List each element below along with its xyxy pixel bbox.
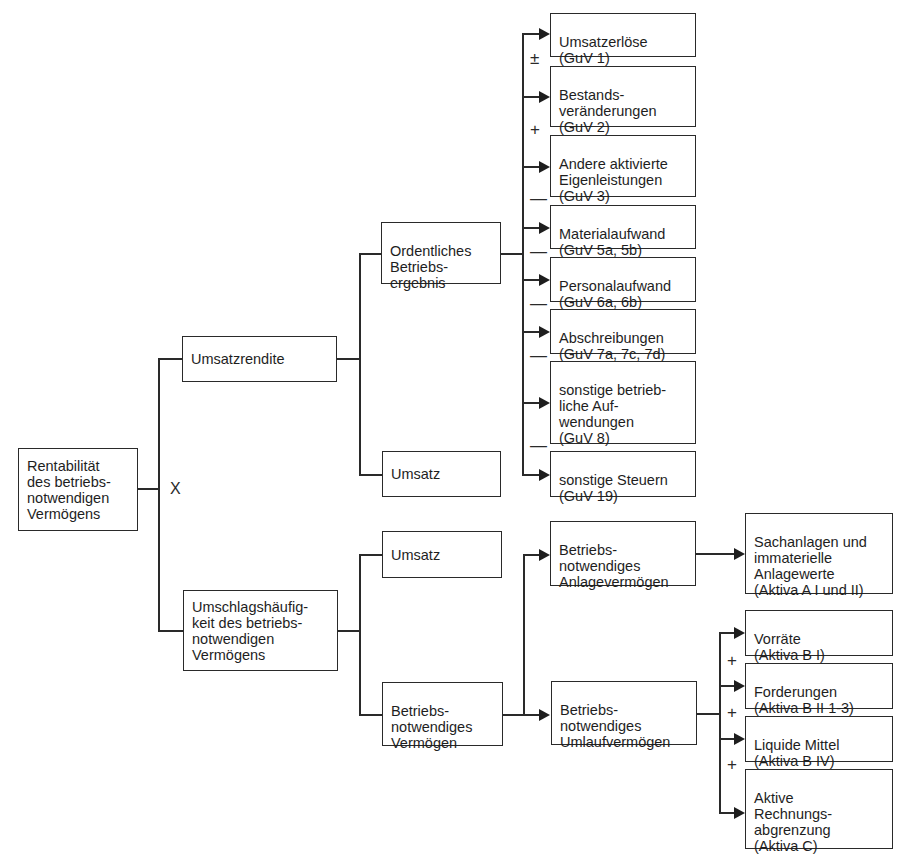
arrow-icon: [539, 161, 550, 173]
label: Andere aktivierte Eigenleistungen (GuV 3…: [559, 156, 668, 204]
plus-sign: +: [727, 704, 737, 721]
connector: [522, 227, 540, 229]
arrow-icon: [539, 326, 550, 338]
box-aktive-rechnungsabgrenzung: Aktive Rechnungs- abgrenzung (Aktiva C): [745, 769, 893, 849]
box-bestandsveraenderungen: Bestands- veränderungen (GuV 2): [550, 66, 696, 127]
connector: [522, 402, 540, 404]
connector: [522, 33, 540, 35]
connector: [522, 331, 540, 333]
box-umlaufvermoegen: Betriebs- notwendiges Umlaufvermögen: [551, 681, 697, 745]
connector: [719, 632, 721, 813]
connector: [696, 553, 734, 555]
connector: [359, 253, 361, 475]
connector: [522, 166, 540, 168]
label: Umsatzrendite: [191, 351, 284, 367]
connector: [696, 713, 719, 715]
multiply-operator: X: [170, 480, 181, 498]
connector: [137, 488, 159, 490]
box-sachanlagen: Sachanlagen und immaterielle Anlagewerte…: [745, 513, 893, 594]
arrow-icon: [734, 627, 745, 639]
label: sonstige betrieb- liche Auf- wendungen (…: [559, 382, 666, 446]
label: Betriebs- notwendiges Umlaufvermögen: [560, 702, 670, 750]
root-label: Rentabilität des betriebs- notwendigen V…: [27, 458, 111, 522]
box-forderungen: Forderungen (Aktiva B II 1-3): [745, 663, 893, 709]
label: Liquide Mittel (Aktiva B IV): [754, 737, 839, 769]
box-sonstige-betriebliche-aufwendungen: sonstige betrieb- liche Auf- wendungen (…: [550, 361, 696, 444]
connector: [719, 812, 735, 814]
plus-sign: +: [530, 121, 540, 138]
connector: [359, 554, 361, 715]
connector: [158, 630, 183, 632]
connector: [337, 630, 360, 632]
minus-sign: —: [530, 243, 547, 260]
connector: [359, 253, 382, 255]
arrow-icon: [539, 469, 550, 481]
connector: [359, 474, 382, 476]
label: Abschreibungen (GuV 7a, 7c, 7d): [559, 330, 665, 362]
connector: [719, 738, 735, 740]
box-sonstige-steuern: sonstige Steuern (GuV 19): [550, 451, 696, 497]
minus-sign: —: [530, 295, 547, 312]
label: Betriebs- notwendiges Vermögen: [391, 703, 472, 751]
box-umschlagshaeufigkeit: Umschlagshäufig- keit des betriebs- notw…: [183, 590, 338, 671]
minus-sign: —: [530, 437, 547, 454]
connector: [523, 554, 540, 556]
connector: [359, 714, 382, 716]
connector: [336, 358, 360, 360]
arrow-icon: [539, 549, 550, 561]
minus-sign: —: [530, 190, 547, 207]
plus-sign: +: [727, 756, 737, 773]
box-andere-aktivierte-eigenleistungen: Andere aktivierte Eigenleistungen (GuV 3…: [550, 135, 696, 197]
box-materialaufwand: Materialaufwand (GuV 5a, 5b): [550, 205, 696, 249]
arrow-icon: [539, 28, 550, 40]
label: Umsatz: [391, 547, 440, 563]
arrow-icon: [734, 733, 745, 745]
label: Personalaufwand (GuV 6a, 6b): [559, 278, 671, 310]
box-umsatzrendite: Umsatzrendite: [182, 336, 337, 382]
box-umsatz-upper: Umsatz: [382, 451, 501, 497]
root-box-rentabilitaet: Rentabilität des betriebs- notwendigen V…: [18, 448, 138, 531]
label: Vorräte (Aktiva B I): [754, 631, 825, 663]
plus-minus-sign: ±: [530, 50, 539, 67]
label: Ordentliches Betriebs- ergebnis: [390, 243, 471, 291]
connector: [158, 358, 160, 631]
connector: [522, 474, 540, 476]
minus-sign: —: [530, 347, 547, 364]
box-vorraete: Vorräte (Aktiva B I): [745, 610, 893, 656]
box-liquide-mittel: Liquide Mittel (Aktiva B IV): [745, 716, 893, 762]
label: Bestands- veränderungen (GuV 2): [559, 87, 657, 135]
arrow-icon: [539, 222, 550, 234]
connector: [502, 714, 540, 716]
connector: [523, 554, 525, 715]
arrow-icon: [539, 709, 550, 721]
label: Aktive Rechnungs- abgrenzung (Aktiva C): [754, 790, 832, 854]
arrow-icon: [539, 91, 550, 103]
arrow-icon: [539, 397, 550, 409]
connector: [500, 253, 523, 255]
connector: [158, 358, 183, 360]
connector: [359, 554, 382, 556]
box-abschreibungen: Abschreibungen (GuV 7a, 7c, 7d): [550, 309, 696, 354]
plus-sign: +: [727, 652, 737, 669]
arrow-icon: [734, 807, 745, 819]
box-personalaufwand: Personalaufwand (GuV 6a, 6b): [550, 257, 696, 302]
label: sonstige Steuern (GuV 19): [559, 472, 668, 504]
box-umsatz-lower: Umsatz: [382, 531, 502, 578]
connector: [522, 33, 524, 475]
label: Umschlagshäufig- keit des betriebs- notw…: [192, 599, 308, 663]
label: Materialaufwand (GuV 5a, 5b): [559, 226, 665, 258]
connector: [522, 279, 540, 281]
label: Umsatz: [391, 466, 440, 482]
arrow-icon: [734, 548, 745, 560]
label: Betriebs- notwendiges Anlagevermögen: [559, 542, 669, 590]
box-umsatzerloese: Umsatzerlöse (GuV 1): [550, 13, 696, 57]
label: Forderungen (Aktiva B II 1-3): [754, 684, 854, 716]
box-anlagevermoegen: Betriebs- notwendiges Anlagevermögen: [550, 521, 696, 586]
box-ordentliches-betriebsergebnis: Ordentliches Betriebs- ergebnis: [381, 222, 501, 284]
arrow-icon: [734, 680, 745, 692]
label: Umsatzerlöse (GuV 1): [559, 34, 648, 66]
box-betriebsnotwendiges-vermoegen: Betriebs- notwendiges Vermögen: [382, 682, 503, 746]
connector: [719, 632, 735, 634]
label: Sachanlagen und immaterielle Anlagewerte…: [754, 534, 867, 598]
arrow-icon: [539, 274, 550, 286]
